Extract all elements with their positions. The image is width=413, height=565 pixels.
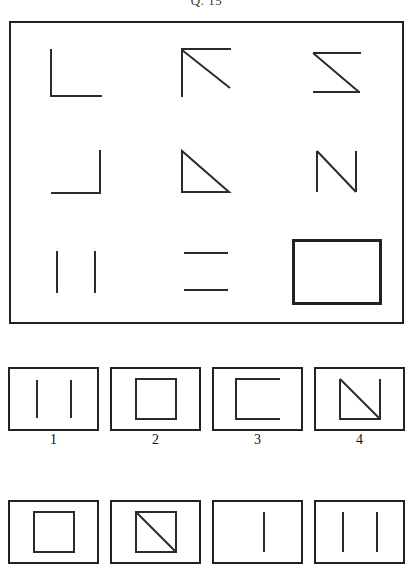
matrix-cell-row2-col2[interactable]	[141, 123, 271, 223]
corner-bottom-left-shape	[49, 48, 103, 98]
option-6[interactable]	[110, 500, 201, 565]
matrix-cell-row1-col3[interactable]	[272, 23, 402, 123]
option-2-box[interactable]	[110, 367, 201, 431]
page-title: Q. 15	[0, 0, 413, 9]
two-vertical-lines-shape	[338, 511, 382, 553]
options-row-two	[8, 500, 405, 565]
right-triangle-shape	[181, 150, 231, 194]
option-1-box[interactable]	[8, 367, 99, 431]
option-5-box[interactable]	[8, 500, 99, 564]
matrix-cell-row1-col1[interactable]	[11, 23, 141, 123]
square-shape	[33, 511, 75, 553]
two-vertical-lines-shape	[32, 379, 76, 419]
matrix-grid	[11, 23, 402, 322]
triangle-with-diagonal-shape	[339, 378, 381, 420]
option-3-box[interactable]	[212, 367, 303, 431]
two-vertical-lines-shape	[56, 250, 96, 294]
matrix-cell-row3-col3[interactable]	[272, 222, 402, 322]
option-2[interactable]: 2	[110, 367, 201, 448]
matrix-panel	[9, 21, 404, 324]
option-1[interactable]: 1	[8, 367, 99, 448]
square-shape	[135, 378, 177, 420]
option-1-label: 1	[50, 432, 57, 448]
n-shape	[316, 150, 358, 194]
option-7-box[interactable]	[212, 500, 303, 564]
option-8[interactable]	[314, 500, 405, 565]
corner-bottom-right-shape	[50, 149, 102, 195]
matrix-cell-row2-col1[interactable]	[11, 123, 141, 223]
matrix-cell-row2-col3[interactable]	[272, 123, 402, 223]
option-2-label: 2	[152, 432, 159, 448]
option-3-label: 3	[254, 432, 261, 448]
option-8-box[interactable]	[314, 500, 405, 564]
option-6-box[interactable]	[110, 500, 201, 564]
option-4-label: 4	[356, 432, 363, 448]
matrix-cell-row1-col2[interactable]	[141, 23, 271, 123]
square-with-diagonal-shape	[135, 511, 177, 553]
option-5[interactable]	[8, 500, 99, 565]
option-4-box[interactable]	[314, 367, 405, 431]
option-7[interactable]	[212, 500, 303, 565]
option-4[interactable]: 4	[314, 367, 405, 448]
z-shape	[312, 52, 362, 94]
corner-top-left-with-diagonal-shape	[180, 48, 232, 98]
options-row-one: 1 2 3 4	[8, 367, 405, 448]
matrix-cell-row3-col1[interactable]	[11, 222, 141, 322]
option-3[interactable]: 3	[212, 367, 303, 448]
rectangle-shape	[292, 239, 382, 305]
c-shape	[235, 378, 281, 420]
two-horizontal-lines-shape	[183, 252, 229, 292]
matrix-cell-row3-col2[interactable]	[141, 222, 271, 322]
single-vertical-line-shape	[237, 511, 279, 553]
